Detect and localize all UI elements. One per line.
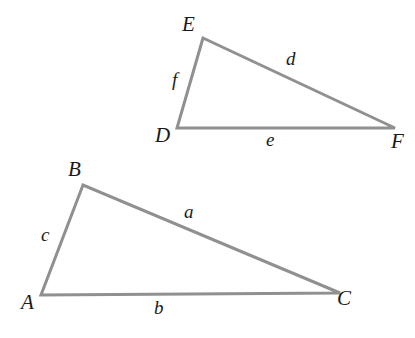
- vertex-label-d: D: [155, 125, 170, 146]
- side-label-b: b: [154, 298, 164, 317]
- side-label-d: d: [286, 49, 296, 68]
- side-label-f: f: [172, 70, 177, 89]
- triangles-svg: [0, 0, 415, 338]
- vertex-label-f: F: [391, 131, 404, 152]
- vertex-label-c: C: [337, 288, 351, 309]
- vertex-label-e: E: [182, 14, 195, 35]
- side-label-c: c: [41, 225, 49, 244]
- side-label-e: e: [266, 130, 274, 149]
- vertex-label-a: A: [21, 292, 34, 313]
- geometry-figure: E D F f d e B A C c a b: [0, 0, 415, 338]
- vertex-label-b: B: [68, 159, 81, 180]
- side-label-a: a: [184, 202, 194, 221]
